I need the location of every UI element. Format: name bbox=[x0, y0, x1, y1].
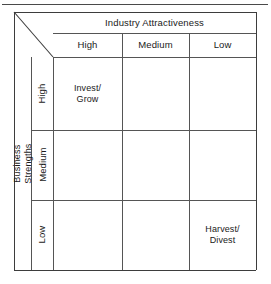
column-axis-title: Industry Attractiveness bbox=[53, 12, 256, 33]
cell-high-medium[interactable] bbox=[122, 57, 189, 130]
row-header-low-text: Low bbox=[36, 226, 47, 244]
row-axis-title-text: Business Strengths bbox=[12, 143, 33, 183]
page-top-rule bbox=[2, 4, 268, 5]
row-header-high: High bbox=[31, 57, 53, 130]
cell-low-low-text: Harvest/ Divest bbox=[205, 224, 239, 245]
cell-low-high[interactable] bbox=[53, 200, 122, 270]
column-header-high: High bbox=[53, 33, 122, 57]
cell-high-high[interactable]: Invest/ Grow bbox=[53, 57, 122, 130]
column-header-low-text: Low bbox=[214, 39, 232, 50]
row-header-medium: Medium bbox=[31, 130, 53, 200]
cell-high-high-text: Invest/ Grow bbox=[74, 83, 101, 104]
cell-low-low[interactable]: Harvest/ Divest bbox=[189, 200, 256, 270]
row-axis-title: Business Strengths bbox=[14, 57, 31, 270]
cell-low-medium[interactable] bbox=[122, 200, 189, 270]
column-header-medium: Medium bbox=[122, 33, 189, 57]
column-header-low: Low bbox=[189, 33, 256, 57]
column-axis-title-text: Industry Attractiveness bbox=[105, 17, 204, 28]
cell-high-low[interactable] bbox=[189, 57, 256, 130]
column-header-high-text: High bbox=[78, 39, 98, 50]
cell-medium-low[interactable] bbox=[189, 130, 256, 200]
corner-perspective-diagonal-icon bbox=[12, 10, 58, 62]
row-header-medium-text: Medium bbox=[36, 148, 47, 182]
row-header-high-text: High bbox=[36, 84, 47, 104]
grid-outer-bottom-border bbox=[14, 270, 256, 271]
column-header-medium-text: Medium bbox=[138, 39, 172, 50]
strategy-matrix-figure: Industry Attractiveness High Medium Low … bbox=[0, 0, 271, 284]
cell-medium-medium[interactable] bbox=[122, 130, 189, 200]
grid-outer-right-border bbox=[256, 12, 257, 270]
cell-medium-high[interactable] bbox=[53, 130, 122, 200]
row-header-low: Low bbox=[31, 200, 53, 270]
